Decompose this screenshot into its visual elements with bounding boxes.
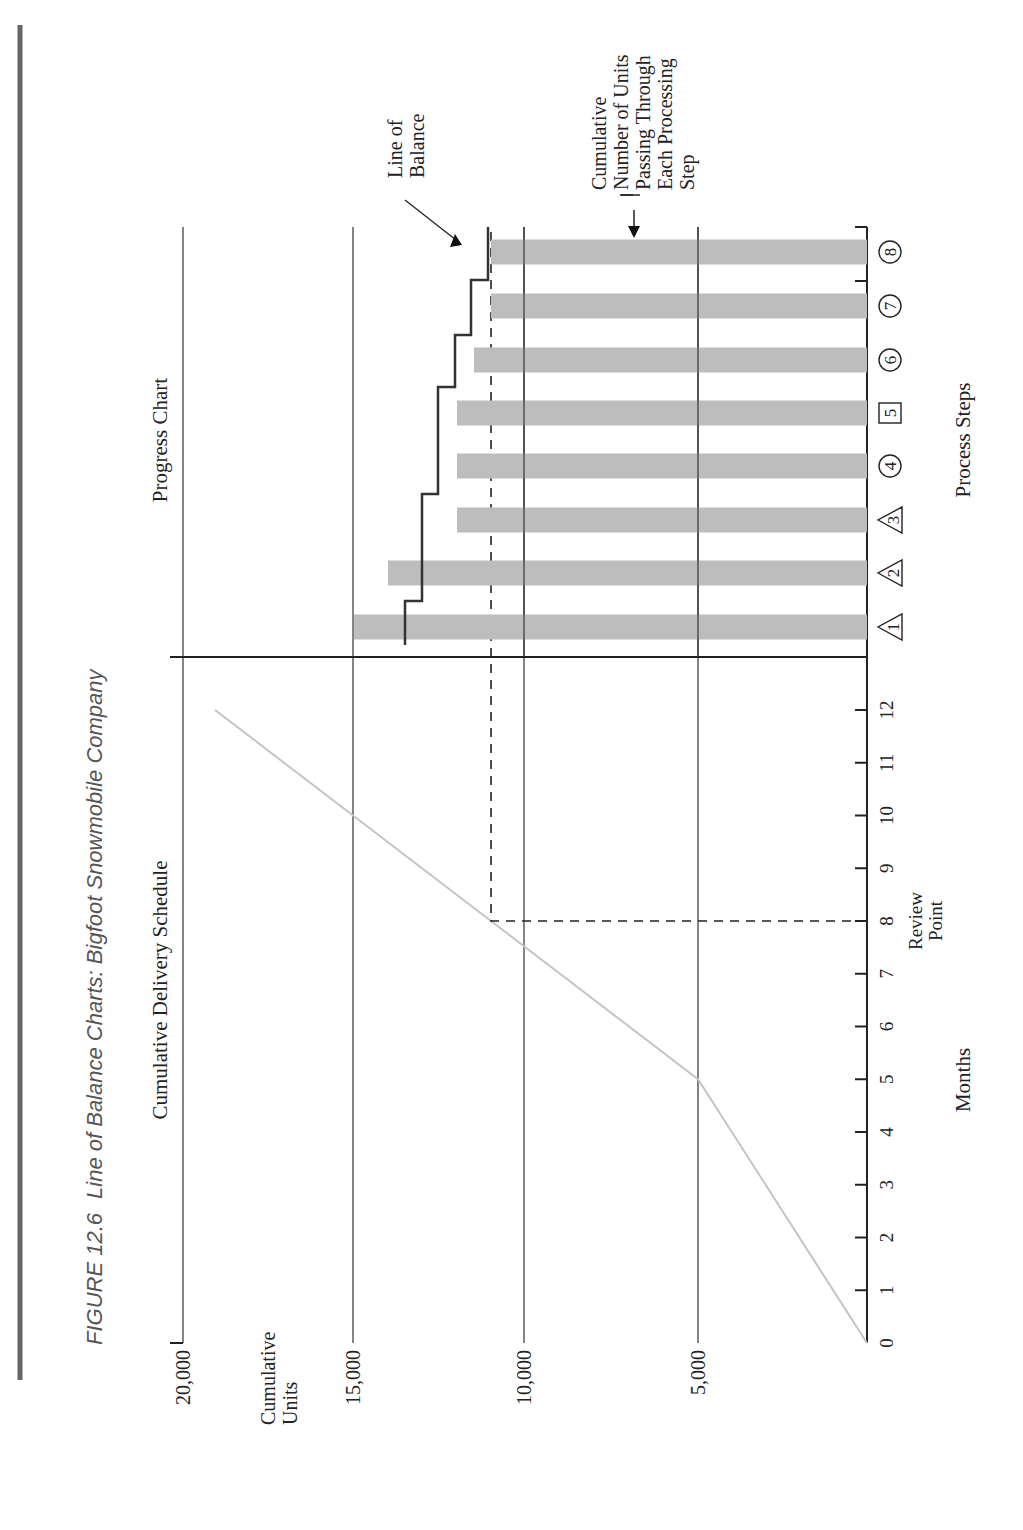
bar-step-5 bbox=[457, 401, 867, 426]
review-point-label-line2: Point bbox=[925, 900, 946, 941]
delivery-schedule-line bbox=[215, 710, 867, 1343]
step-2-triangle-icon: 2 bbox=[878, 560, 903, 586]
cum-units-label: Cumulative Number of Units Passing Throu… bbox=[588, 54, 699, 190]
month-labels: 0 1 2 3 4 5 6 7 8 9 10 11 12 bbox=[876, 701, 897, 1348]
cum-label-line1: Cumulative bbox=[588, 97, 610, 190]
gridlines bbox=[183, 227, 698, 1343]
bar-step-3 bbox=[457, 508, 867, 533]
step-6-circle-icon: 6 bbox=[879, 349, 901, 371]
bar-step-6 bbox=[474, 348, 867, 373]
month-tick-8: 8 bbox=[876, 916, 897, 926]
month-ticks bbox=[855, 710, 867, 1290]
figure-title: Line of Balance Charts: Bigfoot Snowmobi… bbox=[82, 667, 107, 1199]
month-tick-0: 0 bbox=[876, 1338, 897, 1348]
y-tick-20000: 20,000 bbox=[172, 1350, 194, 1405]
bar-step-7 bbox=[491, 294, 867, 319]
step-7-circle-icon: 7 bbox=[879, 295, 901, 317]
months-axis-label: Months bbox=[951, 1048, 975, 1112]
month-tick-7: 7 bbox=[876, 969, 897, 979]
cum-label-line2: Number of Units bbox=[610, 54, 632, 190]
step-1-triangle-icon: 1 bbox=[878, 614, 903, 640]
process-steps-axis-label: Process Steps bbox=[951, 383, 975, 498]
step-4-circle-icon: 4 bbox=[879, 455, 901, 477]
y-tick-10000: 10,000 bbox=[513, 1350, 535, 1405]
month-tick-12: 12 bbox=[876, 701, 897, 720]
bar-step-2 bbox=[388, 561, 867, 586]
step-1-label: 1 bbox=[884, 623, 903, 632]
cum-label-line4: Each Processing bbox=[654, 58, 677, 190]
month-tick-2: 2 bbox=[876, 1233, 897, 1243]
bar-step-1 bbox=[354, 615, 867, 640]
step-5-square-icon: 5 bbox=[879, 403, 901, 423]
step-8-circle-icon: 8 bbox=[879, 241, 901, 263]
step-6-label: 6 bbox=[881, 356, 900, 365]
figure-caption: FIGURE 12.6Line of Balance Charts: Bigfo… bbox=[82, 667, 107, 1345]
y-axis-label-line1: Cumulative bbox=[257, 1332, 279, 1425]
month-tick-9: 9 bbox=[876, 864, 897, 874]
month-tick-11: 11 bbox=[876, 754, 897, 772]
figure-canvas: FIGURE 12.6Line of Balance Charts: Bigfo… bbox=[0, 0, 1023, 1530]
progress-chart-title: Progress Chart bbox=[148, 378, 172, 502]
figure-number: FIGURE 12.6 bbox=[82, 1212, 107, 1345]
month-tick-10: 10 bbox=[876, 806, 897, 825]
step-2-label: 2 bbox=[884, 569, 903, 578]
delivery-schedule-title: Cumulative Delivery Schedule bbox=[148, 861, 172, 1120]
y-tick-15000: 15,000 bbox=[342, 1350, 364, 1405]
lob-label-line1: Line of bbox=[384, 119, 406, 178]
step-4-label: 4 bbox=[881, 461, 900, 470]
month-tick-3: 3 bbox=[876, 1180, 897, 1190]
step-3-triangle-icon: 3 bbox=[878, 507, 903, 533]
step-5-label: 5 bbox=[881, 409, 900, 418]
bar-step-4 bbox=[457, 454, 867, 479]
review-point-label-line1: Review bbox=[905, 892, 926, 950]
y-axis-label-line2: Units bbox=[279, 1381, 301, 1425]
progress-bars bbox=[354, 240, 867, 640]
month-tick-4: 4 bbox=[876, 1127, 897, 1137]
lob-pointer-line bbox=[405, 200, 456, 240]
y-tick-5000: 5,000 bbox=[687, 1350, 709, 1395]
y-axis-labels: 20,000 15,000 10,000 5,000 Cumulative Un… bbox=[172, 1332, 709, 1425]
cum-arrowhead-icon bbox=[628, 226, 640, 238]
month-tick-5: 5 bbox=[876, 1075, 897, 1085]
cum-label-line5: Step bbox=[676, 154, 699, 190]
step-8-label: 8 bbox=[881, 248, 900, 257]
bar-step-8 bbox=[491, 240, 867, 265]
line-of-balance-figure: FIGURE 12.6Line of Balance Charts: Bigfo… bbox=[0, 0, 1023, 1530]
month-tick-6: 6 bbox=[876, 1022, 897, 1032]
month-tick-1: 1 bbox=[876, 1286, 897, 1296]
step-7-label: 7 bbox=[881, 301, 900, 310]
step-3-label: 3 bbox=[884, 516, 903, 525]
lob-label-line2: Balance bbox=[406, 113, 428, 178]
cum-label-line3: Passing Through bbox=[632, 55, 655, 190]
process-step-markers: 1 2 3 4 5 6 7 8 bbox=[878, 241, 903, 640]
gridlines-over-bars bbox=[524, 227, 698, 657]
